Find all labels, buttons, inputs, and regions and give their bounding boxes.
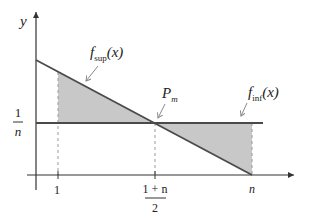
f-inf-label: finf(x) xyxy=(248,84,279,103)
p-m-name: P xyxy=(161,85,171,101)
diagram-canvas: y 1 n 1 1 + n 2 n fsup(x) Pm finf(x) xyxy=(0,0,310,222)
f-sup-leader xyxy=(86,66,98,81)
x-tick-label-mid-numerator: 1 + n xyxy=(143,182,168,196)
f-sup-arg: (x) xyxy=(107,44,124,61)
f-sup-label: fsup(x) xyxy=(90,44,123,63)
x-tick-label-1: 1 xyxy=(54,183,60,197)
p-m-subscript: m xyxy=(171,94,178,104)
y-tick-numerator: 1 xyxy=(15,105,22,120)
f-inf-arg: (x) xyxy=(262,84,279,101)
p-m-label: Pm xyxy=(161,85,178,104)
y-axis-label: y xyxy=(18,13,27,29)
f-sup-subscript: sup xyxy=(94,53,107,63)
x-tick-label-n: n xyxy=(249,182,255,196)
p-m-leader xyxy=(158,104,165,118)
f-inf-leader xyxy=(241,103,247,116)
x-tick-label-mid-denominator: 2 xyxy=(152,201,158,215)
f-inf-subscript: inf xyxy=(252,93,262,103)
y-tick-denominator: n xyxy=(15,124,22,139)
